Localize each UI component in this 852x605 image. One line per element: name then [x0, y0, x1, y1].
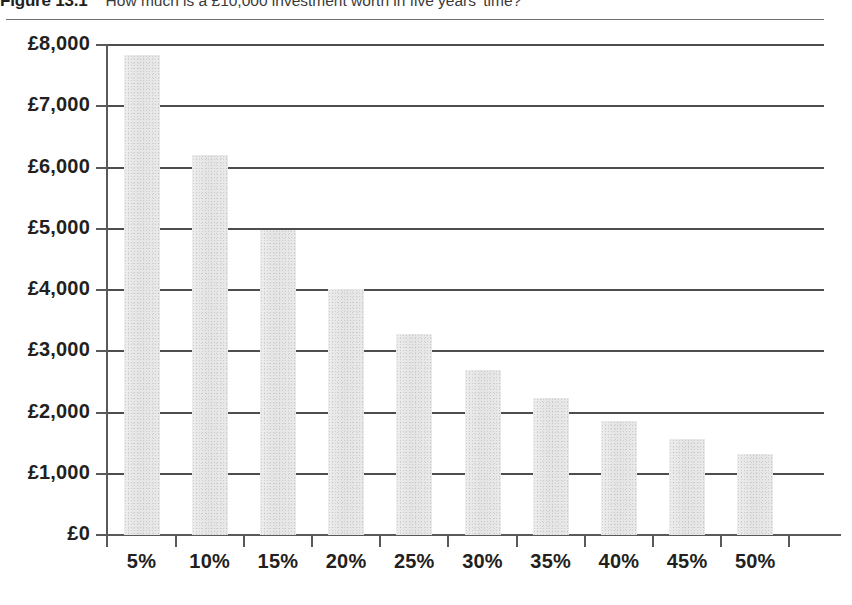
bar — [465, 370, 501, 535]
figure-caption: Figure 13.1How much is a £10,000 investm… — [0, 0, 852, 13]
bar — [601, 421, 637, 535]
caption-divider — [6, 19, 824, 20]
y-axis-tick — [96, 473, 108, 475]
x-axis-tick — [106, 536, 108, 547]
x-axis-tick — [516, 536, 518, 547]
x-axis-tick — [447, 536, 449, 547]
x-axis-tick — [584, 536, 586, 547]
bar — [396, 334, 432, 535]
x-axis-tick — [720, 536, 722, 547]
gridline — [107, 105, 824, 107]
bar — [124, 55, 160, 535]
x-axis-tick — [652, 536, 654, 547]
bar — [669, 439, 705, 535]
y-axis-tick — [96, 350, 108, 352]
x-axis-tick — [788, 536, 790, 547]
y-axis-label: £7,000 — [0, 93, 90, 116]
bar — [737, 454, 773, 535]
y-axis-tick — [96, 412, 108, 414]
bar — [533, 398, 569, 535]
x-axis-tick — [243, 536, 245, 547]
figure-caption-text: How much is a £10,000 investment worth i… — [106, 0, 522, 9]
y-axis-label: £1,000 — [0, 461, 90, 484]
y-axis-tick — [96, 167, 108, 169]
y-axis-label: £5,000 — [0, 216, 90, 239]
x-axis-label: 50% — [715, 550, 795, 573]
x-axis-tick — [311, 536, 313, 547]
x-axis-tick — [175, 536, 177, 547]
gridline — [107, 44, 824, 46]
bar-chart: Figure 13.1How much is a £10,000 investm… — [0, 0, 852, 605]
y-axis-label: £3,000 — [0, 338, 90, 361]
y-axis-label: £2,000 — [0, 400, 90, 423]
y-axis-tick — [96, 105, 108, 107]
y-axis-tick — [96, 228, 108, 230]
y-axis-label: £6,000 — [0, 155, 90, 178]
x-axis-tick — [379, 536, 381, 547]
y-axis-tick — [96, 289, 108, 291]
y-axis-label: £4,000 — [0, 277, 90, 300]
y-axis-label: £0 — [0, 522, 90, 545]
y-axis-tick — [96, 44, 108, 46]
bar — [328, 289, 364, 535]
figure-label: Figure 13.1 — [0, 0, 88, 10]
bar — [192, 155, 228, 535]
y-axis-label: £8,000 — [0, 32, 90, 55]
bar — [260, 230, 296, 535]
